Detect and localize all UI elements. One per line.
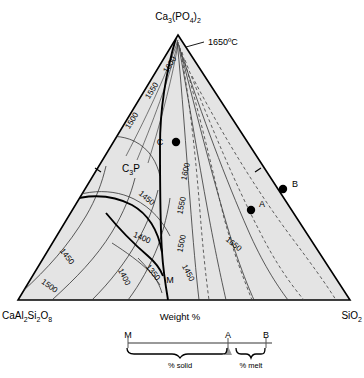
point-marker-A[interactable] (247, 206, 255, 214)
corner-label-bottom-left: CaAl2Si2O8 (2, 310, 52, 323)
lever-label-A: A (225, 330, 231, 340)
point-label-C: C (157, 137, 164, 147)
corner-label-top: Ca3(PO4)2 (155, 11, 201, 24)
lever-label-M: M (124, 330, 132, 340)
callout-leader-line (186, 42, 204, 47)
lever-rule-diagram: M A B % solid % melt (124, 330, 272, 370)
lever-caption-right: % melt (240, 361, 264, 370)
lever-brace-left (127, 348, 227, 358)
point-marker-C[interactable] (172, 138, 180, 146)
lever-label-B: B (263, 330, 269, 340)
lever-caption-left: % solid (168, 361, 192, 370)
corner-label-bottom-right: SiO2 (341, 310, 362, 323)
axis-label-weight-percent: Weight % (160, 311, 201, 322)
callout-1650 (186, 42, 204, 47)
lever-brace-right (236, 348, 265, 358)
ternary-phase-diagram-figure: Ca3(PO4)2 CaAl2Si2O8 SiO2 Weight % 1650º… (0, 0, 364, 378)
point-label-B: B (292, 179, 298, 189)
point-label-M: M (166, 275, 174, 285)
point-marker-B[interactable] (279, 185, 287, 193)
point-label-A: A (259, 199, 265, 209)
callout-label-1650c: 1650ºC (208, 37, 238, 47)
diagram-canvas: Ca3(PO4)2 CaAl2Si2O8 SiO2 Weight % 1650º… (0, 0, 364, 378)
